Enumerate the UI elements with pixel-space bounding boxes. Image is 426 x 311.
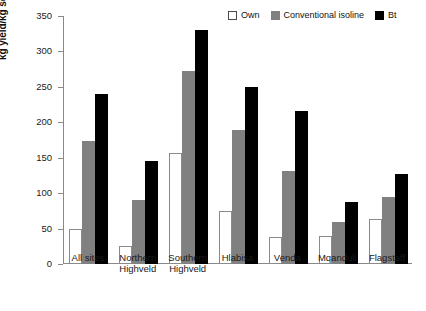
y-axis-title: kg yield/kg seed planted	[0, 0, 8, 60]
black-square-icon	[375, 11, 384, 20]
bar-bt	[145, 161, 158, 264]
bar-bt	[195, 30, 208, 264]
legend-label-bt: Bt	[388, 10, 397, 20]
bar-conv	[232, 130, 245, 264]
bar-group	[319, 16, 358, 264]
y-tick-label: 150	[22, 153, 52, 162]
bar-conv	[182, 71, 195, 264]
bar-chart: kg yield/kg seed planted 050100150200250…	[0, 0, 426, 311]
y-tick-label: 200	[22, 117, 52, 126]
legend-label-own: Own	[241, 10, 260, 20]
legend-item-conventional-isoline: Conventional isoline	[271, 10, 365, 20]
y-tick-mark	[58, 264, 63, 265]
white-square-icon	[228, 11, 237, 20]
bar-group	[169, 16, 208, 264]
y-tick-label: 350	[22, 11, 52, 20]
chart-legend: Own Conventional isoline Bt	[228, 10, 403, 20]
bar-bt	[95, 94, 108, 264]
gray-square-icon	[271, 11, 280, 20]
bar-bt	[395, 174, 408, 264]
legend-item-own: Own	[228, 10, 260, 20]
bar-group	[69, 16, 108, 264]
y-tick-label: 50	[22, 224, 52, 233]
legend-item-bt: Bt	[375, 10, 397, 20]
plot-area	[63, 16, 412, 264]
y-tick-label: 300	[22, 46, 52, 55]
bar-conv	[282, 171, 295, 264]
x-axis-label: Flagstaff	[342, 252, 426, 263]
y-tick-label: 100	[22, 188, 52, 197]
bar-group	[119, 16, 158, 264]
bar-group	[269, 16, 308, 264]
bar-bt	[295, 111, 308, 264]
bar-own	[169, 153, 182, 264]
bar-group	[219, 16, 258, 264]
legend-label-conventional-isoline: Conventional isoline	[284, 10, 365, 20]
y-tick-label: 250	[22, 82, 52, 91]
bar-bt	[245, 87, 258, 264]
bar-group	[369, 16, 408, 264]
bar-conv	[82, 141, 95, 264]
